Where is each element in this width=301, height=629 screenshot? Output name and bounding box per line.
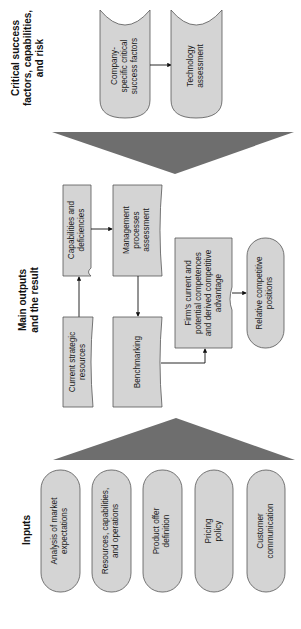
svg-text:Customer: Customer [256,513,265,549]
svg-text:resources: resources [78,344,87,380]
svg-text:Benchmarking: Benchmarking [133,335,142,388]
svg-text:Technology: Technology [186,44,195,86]
svg-text:Inputs: Inputs [21,515,32,545]
input-product-offer: Product offer definition [143,470,182,592]
header-main: Main outputs and the result [17,267,40,333]
header-inputs: Inputs [21,515,32,545]
svg-text:Analysis of market: Analysis of market [50,497,59,565]
arrow-bench-to-firm [161,349,205,363]
node-firm-competences: Firm's current and potential competences… [175,238,232,348]
svg-text:potential competences: potential competences [194,252,203,334]
input-market-expectations: Analysis of market expectations [41,470,80,592]
node-benchmarking: Benchmarking [113,317,162,407]
svg-text:and risk: and risk [34,38,45,77]
svg-text:and derived competitive: and derived competitive [204,249,213,336]
funnel-top-icon [52,132,294,174]
svg-text:advantage: advantage [214,273,223,312]
svg-text:specific critical: specific critical [120,39,129,92]
input-customer-comm: Customer communication [247,470,285,592]
svg-text:deficiencies: deficiencies [77,209,86,252]
svg-text:communication: communication [266,503,275,559]
svg-text:definition: definition [162,514,171,547]
svg-text:and the result: and the result [29,267,40,333]
node-tech-assessment: Technology assessment [171,10,222,118]
svg-text:Relative competitive: Relative competitive [255,256,264,330]
svg-text:Pricing: Pricing [204,518,213,543]
node-relative-positions: Relative competitive positions [247,238,284,348]
header-critical: Critical success factors, capabilities, … [10,10,45,106]
svg-text:Critical success: Critical success [10,19,21,96]
node-management: Management processes assessment [113,185,162,276]
svg-text:Resources, capabilities,: Resources, capabilities, [101,488,110,574]
node-current-resources: Current strategic resources [63,317,93,407]
svg-text:factors, capabilities,: factors, capabilities, [22,10,33,106]
svg-text:assessment: assessment [196,43,205,87]
svg-text:Product offer: Product offer [152,507,161,554]
svg-text:positions: positions [265,277,274,309]
diagram-canvas: Critical success factors, capabilities, … [0,0,301,629]
svg-text:Current strategic: Current strategic [68,332,77,393]
svg-text:success factors: success factors [130,38,139,94]
svg-text:Main outputs: Main outputs [17,268,28,331]
svg-text:Capabilities and: Capabilities and [67,200,76,259]
svg-text:Firm's current and: Firm's current and [184,260,193,326]
svg-text:assessment: assessment [142,207,151,251]
svg-text:Company-: Company- [110,47,119,85]
node-capabilities: Capabilities and deficiencies [63,185,91,276]
svg-text:policy: policy [214,520,223,542]
svg-text:Management: Management [122,205,131,254]
svg-text:processes: processes [132,211,141,248]
svg-text:expectations: expectations [60,508,69,554]
input-pricing: Pricing policy [195,470,233,592]
node-company-csf: Company- specific critical success facto… [100,10,150,118]
input-resources-ops: Resources, capabilities, and operations [92,470,131,592]
funnel-bottom-icon [53,418,295,460]
svg-text:and operations: and operations [111,504,120,558]
